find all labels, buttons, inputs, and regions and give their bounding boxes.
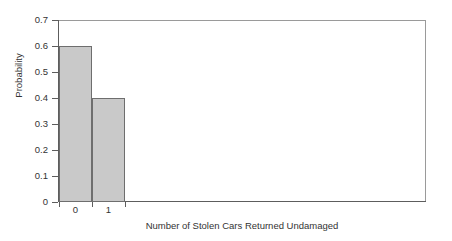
y-axis-tick [52, 202, 58, 203]
bar [92, 98, 125, 202]
y-axis-tick [52, 176, 58, 177]
y-axis-tick [52, 46, 58, 47]
y-axis-tick-label: 0 [8, 197, 48, 207]
probability-bar-chart: 00.10.20.30.40.50.60.7 01 Probability Nu… [0, 0, 452, 241]
y-axis-tick [52, 150, 58, 151]
y-axis-tick-label: 0.3 [8, 119, 48, 129]
x-axis-tick-label: 1 [94, 205, 124, 215]
y-axis-tick [52, 98, 58, 99]
y-axis-tick-label: 0.2 [8, 145, 48, 155]
y-axis-tick-label: 0.7 [8, 15, 48, 25]
y-axis-tick-label: 0.1 [8, 171, 48, 181]
x-axis-tick-label: 0 [61, 205, 91, 215]
x-axis-tick [125, 202, 126, 207]
y-axis-tick [52, 124, 58, 125]
bar [59, 46, 92, 202]
y-axis-tick [52, 20, 58, 21]
y-axis-title: Probability [13, 36, 24, 116]
x-axis-title: Number of Stolen Cars Returned Undamaged [58, 220, 426, 231]
y-axis-tick [52, 72, 58, 73]
